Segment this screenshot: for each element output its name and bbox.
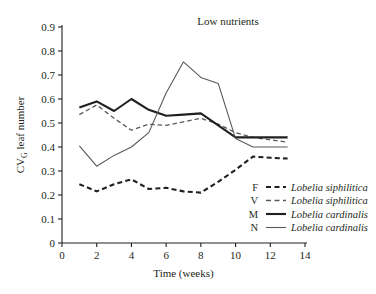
x-tick-label: 2 xyxy=(94,249,100,261)
legend-label-V: Lobelia siphilitica xyxy=(290,195,368,206)
y-tick-label: 0.2 xyxy=(41,189,55,201)
legend-key-F: F xyxy=(252,182,258,193)
y-axis-title: CVG leaf number xyxy=(14,96,29,173)
line-chart: 00.10.20.30.40.50.60.70.80.902468101214T… xyxy=(0,0,376,294)
chart-figure: 00.10.20.30.40.50.60.70.80.902468101214T… xyxy=(0,0,376,294)
plot-title: Low nutrients xyxy=(197,15,258,27)
legend-label-M: Lobelia cardinalis xyxy=(290,209,368,220)
y-tick-label: 0.9 xyxy=(41,21,55,33)
y-tick-label: 0.8 xyxy=(41,45,55,57)
x-tick-label: 10 xyxy=(230,249,242,261)
y-tick-label: 0.5 xyxy=(41,117,55,129)
y-tick-label: 0 xyxy=(50,237,56,249)
legend-key-N: N xyxy=(250,222,258,233)
x-tick-label: 14 xyxy=(300,249,312,261)
legend-label-N: Lobelia cardinalis xyxy=(290,222,368,233)
x-tick-label: 4 xyxy=(129,249,135,261)
legend-key-V: V xyxy=(250,195,258,206)
x-axis-title: Time (weeks) xyxy=(153,267,214,280)
series-line-M xyxy=(79,99,287,137)
y-tick-label: 0.6 xyxy=(41,93,55,105)
x-tick-label: 8 xyxy=(198,249,204,261)
legend-label-F: Lobelia siphilitica xyxy=(290,182,368,193)
y-tick-label: 0.4 xyxy=(41,141,55,153)
x-tick-label: 12 xyxy=(265,249,276,261)
y-tick-label: 0.3 xyxy=(41,165,55,177)
legend-key-M: M xyxy=(249,209,259,220)
chart-legend: FLobelia siphiliticaVLobelia siphilitica… xyxy=(249,182,368,234)
x-tick-label: 0 xyxy=(59,249,65,261)
y-tick-label: 0.7 xyxy=(41,69,55,81)
x-tick-label: 6 xyxy=(163,249,169,261)
y-tick-label: 0.1 xyxy=(41,213,55,225)
